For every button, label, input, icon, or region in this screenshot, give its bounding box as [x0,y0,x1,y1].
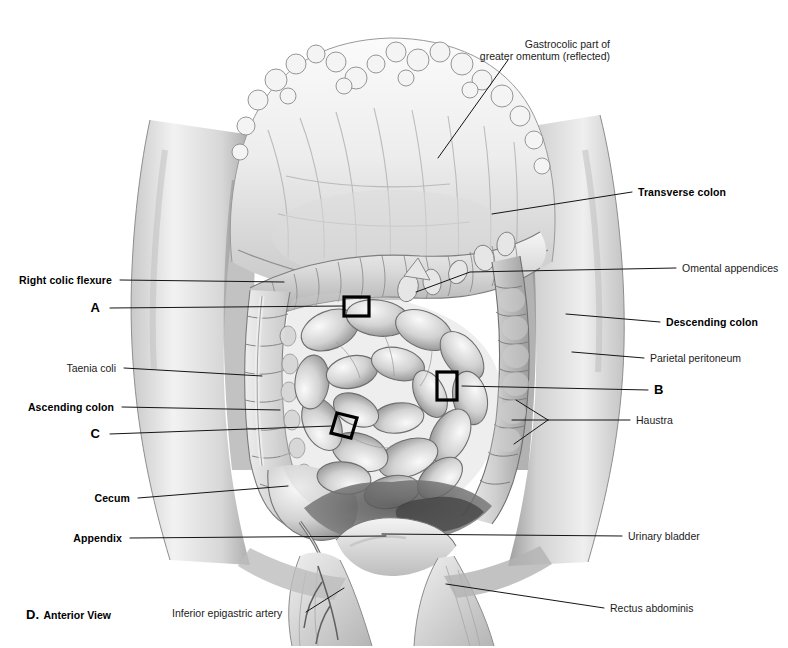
anatomy-figure-plate: Gastrocolic part of greater omentum (ref… [0,0,788,648]
label-haustra: Haustra [636,414,673,426]
label-gastrocolic-omentum: Gastrocolic part of greater omentum (ref… [348,38,610,63]
figure-caption: D. Anterior View [26,605,111,623]
label-rectus-abdominis: Rectus abdominis [610,602,693,614]
label-omental-appendices: Omental appendices [682,262,778,274]
label-right-colic-flexure: Right colic flexure [0,274,112,286]
label-descending-colon: Descending colon [666,316,758,328]
label-marker-a: A [0,300,100,315]
label-marker-c: C [0,426,100,441]
figure-caption-letter: D. [26,607,39,622]
label-gastrocolic-omentum-line1: Gastrocolic part of [348,38,610,50]
label-transverse-colon: Transverse colon [638,186,726,198]
figure-caption-text: Anterior View [43,609,111,621]
label-inferior-epigastric-artery: Inferior epigastric artery [172,607,282,619]
label-parietal-peritoneum: Parietal peritoneum [650,352,741,364]
label-appendix: Appendix [0,532,122,544]
label-ascending-colon: Ascending colon [0,401,114,413]
label-marker-b: B [654,382,663,397]
label-taenia-coli: Taenia coli [0,362,116,374]
label-cecum: Cecum [0,492,130,504]
label-gastrocolic-omentum-line2: greater omentum (reflected) [348,50,610,62]
label-urinary-bladder: Urinary bladder [628,530,700,542]
